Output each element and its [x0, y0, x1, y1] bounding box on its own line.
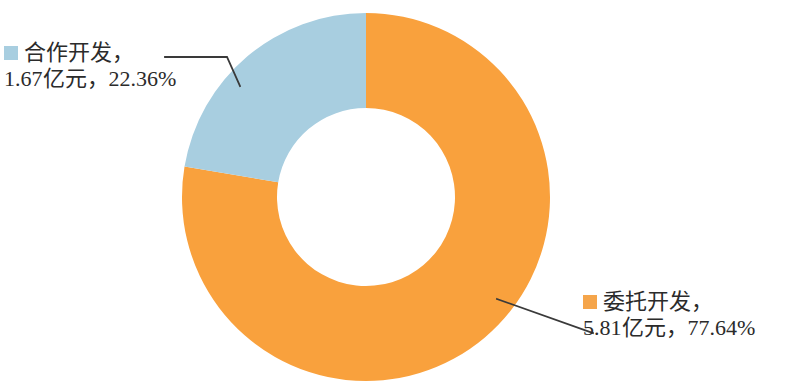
- donut-slice-hezuo-kaifa[interactable]: [185, 13, 366, 182]
- legend-swatch-blue-icon: [4, 46, 18, 60]
- legend-swatch-orange-icon: [583, 295, 597, 309]
- callout-right-line-1: 委托开发，: [583, 289, 755, 315]
- callout-right-value-text: 5.81亿元，77.64%: [583, 315, 755, 341]
- callout-left-category-text: 合作开发，: [24, 40, 134, 66]
- donut-chart-page: 合作开发， 1.67亿元，22.36% 委托开发， 5.81亿元，77.64%: [0, 0, 800, 392]
- callout-label-hezuo-kaifa: 合作开发， 1.67亿元，22.36%: [4, 40, 176, 92]
- leader-line-right: [497, 299, 593, 333]
- callout-label-weituo-kaifa: 委托开发， 5.81亿元，77.64%: [583, 289, 755, 341]
- callout-right-category-text: 委托开发，: [603, 289, 713, 315]
- callout-left-line-1: 合作开发，: [4, 40, 176, 66]
- callout-left-value-text: 1.67亿元，22.36%: [4, 66, 176, 92]
